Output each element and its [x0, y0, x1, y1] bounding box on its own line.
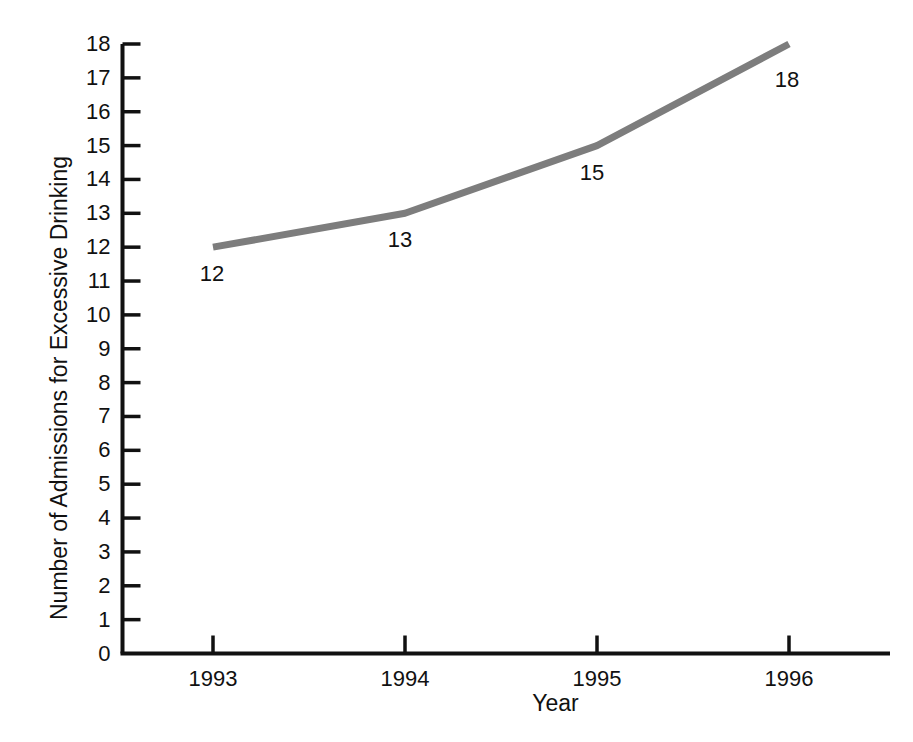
data-point-label: 15 — [580, 160, 604, 186]
data-series-line — [213, 44, 789, 247]
y-axis-ticks — [123, 44, 141, 620]
data-point-label: 13 — [388, 227, 412, 253]
line-chart: Number of Admissions for Excessive Drink… — [0, 0, 913, 742]
y-axis-tick-label: 11 — [88, 268, 111, 294]
x-axis-ticks — [213, 636, 789, 654]
plot-area — [0, 0, 913, 742]
data-point-label: 12 — [200, 261, 224, 287]
y-axis-tick-label: 15 — [86, 133, 110, 159]
y-axis-tick-label: 6 — [98, 437, 110, 463]
y-axis-tick-label: 9 — [98, 336, 110, 362]
y-axis-tick-label: 1 — [98, 607, 110, 633]
y-axis-tick-label: 10 — [86, 302, 110, 328]
y-axis-tick-label: 2 — [98, 573, 110, 599]
y-axis-tick-label: 8 — [98, 370, 110, 396]
y-axis-tick-label: 13 — [86, 200, 110, 226]
x-axis-title: Year — [0, 690, 913, 717]
y-axis-title: Number of Admissions for Excessive Drink… — [46, 156, 73, 620]
y-axis-tick-label: 18 — [86, 31, 110, 57]
y-axis-tick-label: 5 — [98, 471, 110, 497]
data-point-label: 18 — [775, 67, 799, 93]
x-axis-tick-label: 1993 — [189, 666, 238, 692]
x-axis-tick-label: 1995 — [573, 666, 622, 692]
y-axis-tick-label: 3 — [98, 539, 110, 565]
y-axis-tick-label: 0 — [98, 641, 110, 667]
y-axis-tick-label: 17 — [86, 65, 110, 91]
y-axis-tick-label: 4 — [98, 505, 110, 531]
x-axis-tick-label: 1996 — [765, 666, 814, 692]
y-axis-tick-label: 14 — [86, 166, 110, 192]
y-axis-tick-label: 7 — [98, 403, 110, 429]
y-axis-tick-label: 16 — [86, 99, 110, 125]
y-axis-tick-label: 12 — [86, 234, 110, 260]
x-axis-tick-label: 1994 — [381, 666, 430, 692]
